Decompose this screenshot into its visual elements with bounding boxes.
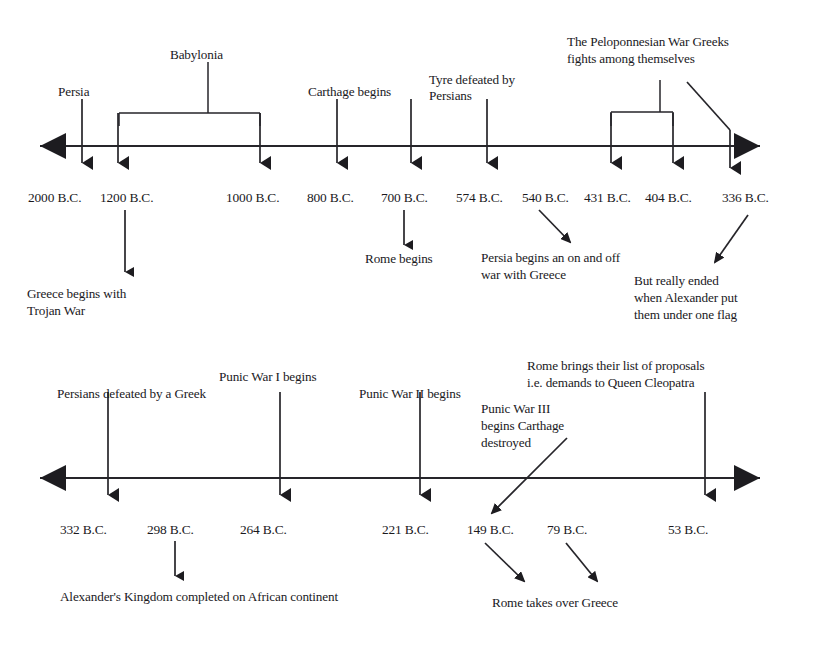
label-punic-war-1: Punic War I begins [219,369,316,384]
note-rome-takes-over-greece: Rome takes over Greece [492,595,618,610]
date-431bc: 431 B.C. [584,190,631,205]
date-53bc: 53 B.C. [668,522,708,537]
label-cleopatra-line1: Rome brings their list of proposals [527,358,705,373]
timeline-1-group: Persia Babylonia Carthage begins Tyre de… [27,34,769,322]
label-peloponnesian-line1: The Peloponnesian War Greeks [567,34,729,49]
connector-peloponnesian-to-336bc [687,82,730,130]
label-punic-war-2: Punic War II begins [359,386,461,401]
timeline-diagram-svg: Persia Babylonia Carthage begins Tyre de… [0,0,822,650]
note-greece-line2: Trojan War [27,303,86,318]
label-punic-war-3-line2: begins Carthage [481,418,564,433]
note-alexander-line3: them under one flag [634,307,738,322]
label-babylonia: Babylonia [170,47,223,62]
timeline-1-ticks [82,99,730,168]
connector-149bc-to-rome-greece-note [485,543,524,581]
date-332bc: 332 B.C. [60,522,107,537]
bracket-babylonia [119,62,260,126]
bracket-peloponnesian-war [611,80,673,126]
date-1000bc: 1000 B.C. [226,190,279,205]
label-peloponnesian-line2: fights among themselves [567,51,695,66]
note-persia-war-line2: war with Greece [481,267,566,282]
timeline-2-left-arrowhead [40,465,66,491]
date-540bc: 540 B.C. [522,190,569,205]
date-574bc: 574 B.C. [456,190,503,205]
date-1200bc: 1200 B.C. [100,190,153,205]
note-rome-begins: Rome begins [365,251,433,266]
label-cleopatra-line2: i.e. demands to Queen Cleopatra [527,375,695,390]
timeline-1-left-arrowhead [40,133,66,159]
label-tyre-line2: Persians [429,88,472,103]
connector-336bc-to-alexander-note [715,215,748,262]
connector-540bc-to-persia-note [539,210,570,242]
timeline-diagram-page: Persia Babylonia Carthage begins Tyre de… [0,0,822,650]
label-persians-defeated: Persians defeated by a Greek [57,386,206,401]
note-alexander-line2: when Alexander put [634,290,738,305]
label-carthage-begins: Carthage begins [308,84,391,99]
date-2000bc: 2000 B.C. [28,190,81,205]
timeline-2-ticks [108,392,705,495]
date-336bc: 336 B.C. [722,190,769,205]
note-alexander-line1: But really ended [634,273,719,288]
timeline-1-right-arrowhead [734,133,760,159]
label-persia: Persia [58,84,90,99]
date-264bc: 264 B.C. [240,522,287,537]
note-greece-line1: Greece begins with [27,286,127,301]
label-punic-war-3-line1: Punic War III [481,401,550,416]
date-221bc: 221 B.C. [382,522,429,537]
timeline-2-right-arrowhead [734,465,760,491]
date-700bc: 700 B.C. [381,190,428,205]
connector-79bc-to-rome-greece-note [566,543,597,581]
label-tyre-line1: Tyre defeated by [429,72,516,87]
date-298bc: 298 B.C. [147,522,194,537]
note-alexander-kingdom: Alexander's Kingdom completed on African… [60,589,338,604]
date-404bc: 404 B.C. [645,190,692,205]
date-79bc: 79 B.C. [547,522,587,537]
date-149bc: 149 B.C. [467,522,514,537]
timeline-2-group: Punic War I begins Persians defeated by … [40,358,760,610]
note-persia-war-line1: Persia begins an on and off [481,250,621,265]
label-punic-war-3-line3: destroyed [481,435,531,450]
date-800bc: 800 B.C. [307,190,354,205]
